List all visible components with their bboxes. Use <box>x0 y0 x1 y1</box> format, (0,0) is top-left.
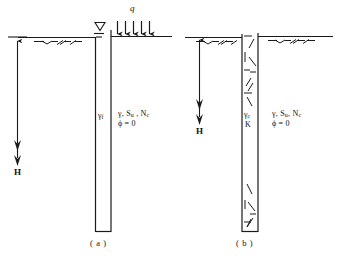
surcharge-label-a: q <box>130 4 135 13</box>
soil-nc-a: , N <box>134 109 147 118</box>
soil-properties-b: γ, Su, Nc ϕ = 0 <box>272 110 301 128</box>
soil-nc-b: , N <box>288 109 298 118</box>
depth-label-a: H <box>14 168 21 177</box>
ground-hatch-b-left <box>196 41 237 45</box>
trench-fill-hatch-b <box>244 36 256 227</box>
surcharge-load-arrows-a <box>118 21 150 34</box>
trench-earth-pressure-coeff-b: K <box>245 121 251 129</box>
trench-stability-figure: q H γf γ, Su , Nc ϕ = 0 ( a ) H γc K γ, … <box>0 0 341 258</box>
depth-dimension-b <box>196 40 203 125</box>
figure-canvas <box>0 0 341 258</box>
trench-fill-sub-b: c <box>248 113 251 119</box>
trench-fill-sub-a: f <box>102 114 104 120</box>
soil-nc-sub-b: c <box>298 112 301 118</box>
depth-label-b: H <box>196 127 203 136</box>
soil-props-line2-b: ϕ = 0 <box>272 120 301 128</box>
soil-nc-sub-a: c <box>147 112 150 118</box>
soil-properties-a: γ, Su , Nc ϕ = 0 <box>118 110 149 128</box>
soil-props-line1-b: γ, Su, Nc <box>272 109 301 118</box>
soil-gamma-su-b: γ, S <box>272 109 285 118</box>
ground-hatch-a-left <box>34 41 82 45</box>
trench-fill-label-a: γf <box>98 112 104 120</box>
panel-caption-a: ( a ) <box>90 239 107 248</box>
trench-fill-label-b: γc <box>244 111 250 119</box>
ground-hatch-b-right <box>268 40 315 44</box>
panel-caption-b: ( b ) <box>236 239 253 248</box>
trench-outline-b <box>242 33 258 232</box>
soil-props-line1-a: γ, Su , Nc <box>118 109 149 118</box>
soil-gamma-su-a: γ, S <box>118 109 131 118</box>
trench-outline-a <box>96 30 112 232</box>
soil-props-line2-a: ϕ = 0 <box>118 120 149 128</box>
water-table-triangle-icon <box>94 23 105 38</box>
depth-dimension-a <box>8 37 27 166</box>
